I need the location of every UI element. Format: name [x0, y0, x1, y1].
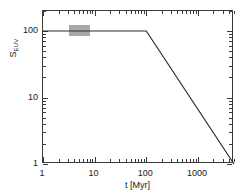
y-tick-major — [227, 164, 232, 165]
x-tick-label: 1000 — [187, 169, 207, 178]
data-series-line — [43, 11, 234, 164]
plot-area — [42, 10, 233, 163]
x-tick-label: 100 — [138, 169, 153, 178]
x-tick-minor — [234, 159, 235, 162]
y-tick-label: 10 — [6, 92, 38, 101]
x-tick-minor — [234, 11, 235, 14]
x-axis-label: t [Myr] — [42, 180, 233, 190]
y-tick-label: 1 — [6, 159, 38, 168]
x-tick-label: 1 — [39, 169, 44, 178]
chart-figure: SEUV 1101001000 110100 t [Myr] — [0, 0, 242, 194]
y-axis-label-subscript: EUV — [13, 39, 19, 52]
series-polyline — [43, 31, 234, 164]
x-tick-label: 10 — [89, 169, 99, 178]
y-axis-label-base: S — [8, 51, 18, 57]
y-tick-label: 100 — [6, 26, 38, 35]
y-tick-major — [43, 164, 48, 165]
